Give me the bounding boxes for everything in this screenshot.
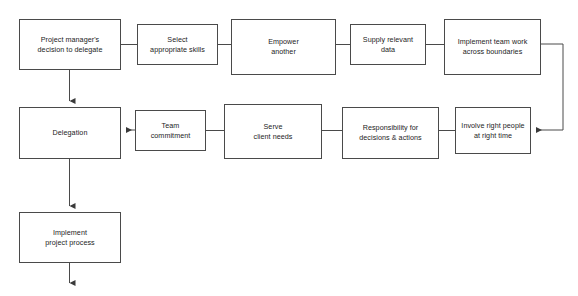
node-label: Supply relevant data	[360, 35, 416, 55]
node-label: Involve right people at right time	[458, 121, 527, 141]
node-project-manager-decision[interactable]: Project manager's decision to delegate	[19, 19, 121, 70]
node-label: Implement project process	[42, 228, 98, 248]
node-empower-another[interactable]: Empower another	[231, 19, 336, 75]
flowchart-canvas: Project manager's decision to delegate S…	[0, 0, 578, 296]
node-label: Responsibility for decisions & actions	[356, 123, 424, 143]
node-delegation[interactable]: Delegation	[19, 107, 121, 159]
node-label: Project manager's decision to delegate	[35, 35, 106, 55]
node-team-commitment[interactable]: Team commitment	[135, 110, 206, 151]
node-serve-client-needs[interactable]: Serve client needs	[224, 104, 322, 159]
node-supply-relevant-data[interactable]: Supply relevant data	[350, 24, 426, 65]
node-label: Delegation	[50, 128, 91, 138]
node-label: Serve client needs	[251, 122, 296, 142]
node-label: Empower another	[265, 37, 302, 57]
node-select-appropriate-skills[interactable]: Select appropriate skills	[137, 24, 218, 65]
node-label: Implement team work across boundaries	[455, 37, 531, 57]
node-involve-right-people[interactable]: Involve right people at right time	[455, 107, 531, 154]
node-implement-team-work[interactable]: Implement team work across boundaries	[444, 19, 541, 75]
node-label: Select appropriate skills	[147, 35, 208, 55]
node-label: Team commitment	[148, 121, 194, 141]
node-implement-project-process[interactable]: Implement project process	[19, 212, 121, 263]
node-responsibility-decisions-actions[interactable]: Responsibility for decisions & actions	[342, 107, 439, 159]
